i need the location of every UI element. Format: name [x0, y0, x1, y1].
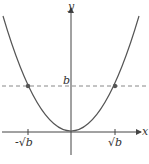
point-sqrt-b	[113, 84, 117, 88]
neg-sqrt-b-label: -√b	[15, 137, 33, 148]
y-axis-label: y	[68, 1, 74, 12]
x-axis-label: x	[142, 126, 148, 137]
point-neg-sqrt-b	[26, 84, 30, 88]
sqrt-b-label: √b	[108, 137, 122, 148]
b-label: b	[63, 75, 70, 86]
